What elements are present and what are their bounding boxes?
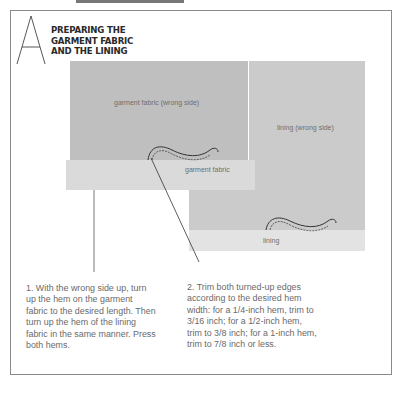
lining-fold-curl-icon <box>266 218 336 231</box>
step-1-text: 1. With the wrong side up, turn up the h… <box>26 283 156 351</box>
garment-fold-curl-icon <box>148 147 218 160</box>
step2-leader-line <box>151 158 199 262</box>
step-2-text: 2. Trim both turned-up edges according t… <box>187 282 317 350</box>
